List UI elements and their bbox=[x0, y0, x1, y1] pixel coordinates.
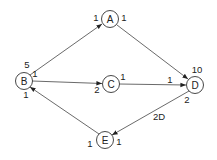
node-a: A bbox=[102, 11, 119, 28]
port-label: 1 bbox=[87, 138, 92, 149]
node-c: C bbox=[103, 76, 120, 93]
edge-d-to-e bbox=[112, 91, 189, 135]
port-label: 1 bbox=[167, 74, 172, 85]
edge-b-to-a bbox=[30, 24, 102, 75]
node-label: C bbox=[107, 79, 114, 90]
port-label: 1 bbox=[116, 136, 121, 147]
edge-e-to-b bbox=[30, 87, 99, 134]
edge-c-to-d bbox=[119, 84, 186, 85]
node-d: D bbox=[187, 77, 204, 94]
port-label: 2D bbox=[153, 111, 165, 122]
edge-a-to-d bbox=[117, 25, 188, 79]
node-label: D bbox=[191, 80, 198, 91]
port-label: 10 bbox=[192, 64, 203, 75]
node-b: B bbox=[16, 73, 33, 90]
port-label: 1 bbox=[93, 12, 98, 23]
nodes: ABCDE bbox=[16, 11, 204, 149]
port-label: 2 bbox=[184, 94, 189, 105]
edge-b-to-c bbox=[32, 81, 102, 84]
node-label: E bbox=[102, 135, 109, 146]
port-label: 1 bbox=[121, 12, 126, 23]
port-label: 1 bbox=[120, 71, 125, 82]
node-label: B bbox=[21, 76, 28, 87]
port-label: 1 bbox=[23, 89, 28, 100]
node-e: E bbox=[97, 132, 114, 149]
graph-diagram: ABCDE 115112110122D11 bbox=[0, 0, 217, 160]
port-label: 5 bbox=[24, 59, 29, 70]
port-label: 2 bbox=[94, 84, 99, 95]
port-label: 1 bbox=[32, 68, 37, 79]
node-label: A bbox=[107, 14, 114, 25]
